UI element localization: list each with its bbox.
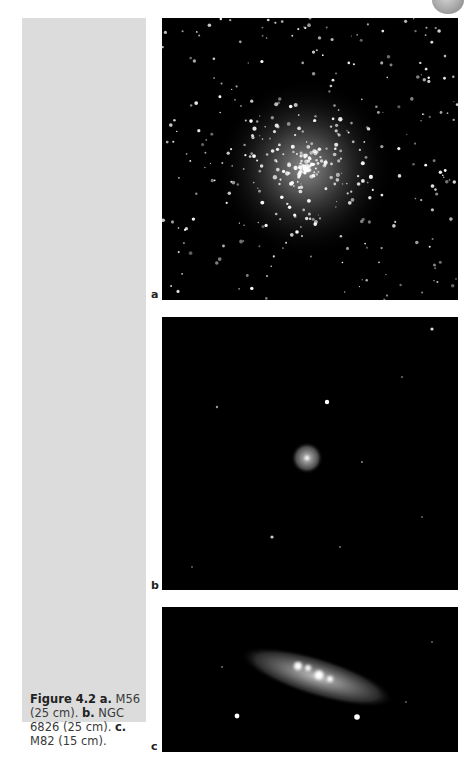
figure-caption: Figure 4.2 a. M56 (25 cm). b. NGC 6826 (… (30, 692, 145, 748)
planetary-nebula (162, 317, 458, 590)
panel-b-label: b (151, 579, 159, 592)
edge-on-galaxy (162, 607, 458, 752)
caption-c-marker: c. (115, 720, 126, 734)
caption-c-text: M82 (15 cm). (30, 734, 107, 748)
panel-c-m82-image (162, 607, 458, 752)
page-corner-badge (432, 0, 464, 14)
panel-b-ngc6826-image (162, 317, 458, 590)
caption-a-marker: a. (100, 692, 112, 706)
panel-a-label: a (151, 288, 158, 301)
panel-a-m56-image (162, 18, 458, 300)
caption-sidebar (22, 18, 146, 722)
panel-c-label: c (151, 740, 158, 753)
star-field-cluster (162, 18, 458, 300)
caption-b-marker: b. (82, 706, 95, 720)
figure-number: Figure 4.2 (30, 692, 96, 706)
